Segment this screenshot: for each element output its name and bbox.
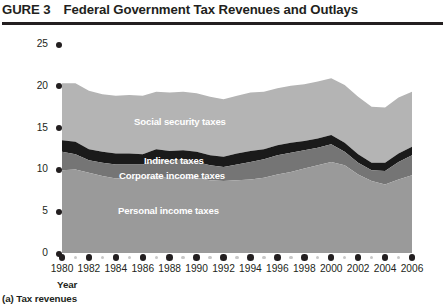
x-tick-dot-minor xyxy=(262,256,265,259)
x-tick-dot-major xyxy=(247,254,254,261)
x-tick-dot-major xyxy=(382,254,389,261)
x-tick-dot-major xyxy=(220,254,227,261)
y-tick-label-25: 25 xyxy=(37,38,48,50)
x-tick-dot-major xyxy=(409,254,416,261)
x-tick-dot-minor xyxy=(343,256,346,259)
x-tick-dot-major xyxy=(166,254,173,261)
panel-caption: (a) Tax revenues xyxy=(2,293,77,304)
chart-plot-area xyxy=(62,44,412,253)
y-tick-label-15: 15 xyxy=(37,122,48,134)
x-tick-dot-minor xyxy=(155,256,158,259)
y-tick-label-5: 5 xyxy=(42,205,48,217)
x-tick-dot-major xyxy=(193,254,200,261)
x-tick-dot-major xyxy=(301,254,308,261)
y-tick-10: 10 xyxy=(10,163,62,175)
x-tick-dot-minor xyxy=(370,256,373,259)
series-label-personal-income: Personal income taxes xyxy=(118,205,219,216)
x-tick-dot-major xyxy=(328,254,335,261)
y-tick-25: 25 xyxy=(10,38,62,50)
x-tick-dot-major xyxy=(274,254,281,261)
x-tick-dot-minor xyxy=(128,256,131,259)
series-label-corporate-income: Corporate income taxes xyxy=(119,170,225,181)
series-label-social-security: Social security taxes xyxy=(134,116,226,127)
x-tick-dot-minor xyxy=(208,256,211,259)
x-axis-title: Year xyxy=(57,279,77,290)
y-tick-20: 20 xyxy=(10,80,62,92)
x-tick-dot-minor xyxy=(316,256,319,259)
figure-header: GURE 3Federal Government Tax Revenues an… xyxy=(0,0,447,26)
stacked-area-chart xyxy=(62,44,412,253)
y-tick-0: 0 xyxy=(10,247,62,259)
x-tick-label: 2006 xyxy=(396,263,428,274)
x-tick-dot-minor xyxy=(181,256,184,259)
y-tick-5: 5 xyxy=(10,205,62,217)
x-tick-dot-minor xyxy=(235,256,238,259)
x-tick-dot-minor xyxy=(397,256,400,259)
series-label-indirect: Indirect taxes xyxy=(144,155,204,166)
x-tick-dot-major xyxy=(86,254,93,261)
y-tick-label-10: 10 xyxy=(37,163,48,175)
x-tick-dot-major xyxy=(140,254,147,261)
y-tick-15: 15 xyxy=(10,122,62,134)
figure-title-text: Federal Government Tax Revenues and Outl… xyxy=(64,2,358,17)
x-tick-dot-major xyxy=(113,254,120,261)
y-tick-label-0: 0 xyxy=(42,247,48,259)
area-band-social-security xyxy=(62,78,412,162)
x-tick-dot-minor xyxy=(74,256,77,259)
x-tick-dot-minor xyxy=(101,256,104,259)
y-tick-label-20: 20 xyxy=(37,80,48,92)
x-tick-dot-major xyxy=(59,254,66,261)
figure-number: GURE 3 xyxy=(2,2,51,17)
x-tick-dot-minor xyxy=(289,256,292,259)
title-divider xyxy=(2,22,443,25)
x-tick-dot-major xyxy=(355,254,362,261)
page-title: GURE 3Federal Government Tax Revenues an… xyxy=(2,2,358,17)
